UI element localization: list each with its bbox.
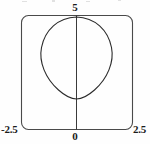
x-axis-min-tick-label: -2.5 (1, 124, 18, 135)
y-axis-max-tick-label: 5 (0, 2, 150, 13)
figure-container: 5 0 -2.5 2.5 (0, 0, 150, 144)
x-axis-max-tick-label: 2.5 (133, 124, 146, 135)
x-axis-origin-tick-label: 0 (0, 131, 150, 142)
plot-area (0, 0, 150, 144)
